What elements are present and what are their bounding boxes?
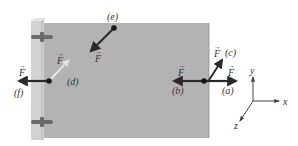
label-f: (f): [14, 88, 23, 98]
vector-arrow-icon: →: [214, 44, 221, 51]
vector-arrow-icon: →: [19, 63, 26, 70]
label-e: (e): [107, 12, 118, 22]
vector-arrow-icon: →: [228, 63, 235, 70]
vector-arrow-icon: →: [178, 63, 185, 70]
application-point-edge: [201, 78, 207, 84]
force-f-symbol: →F: [19, 68, 25, 78]
axis-label-z: z: [234, 121, 238, 131]
vector-arrow-icon: →: [57, 51, 64, 58]
label-a: (a): [222, 86, 234, 96]
force-c-arrow: [209, 60, 222, 80]
force-e-symbol: →F: [95, 54, 101, 64]
application-point-hinge: [46, 78, 52, 84]
axis-label-x: x: [283, 97, 287, 107]
z-axis: [240, 101, 253, 121]
label-d: (d): [67, 77, 79, 87]
application-point-e: [111, 25, 117, 31]
label-b: (b): [172, 86, 184, 96]
label-c: (c): [225, 48, 236, 58]
coordinate-axes: [240, 77, 279, 121]
force-d-symbol: →F: [57, 56, 63, 66]
vector-arrow-icon: →: [95, 49, 102, 56]
force-c-symbol: →F: [214, 49, 220, 59]
force-b-symbol: →F: [178, 68, 184, 78]
axis-label-y: y: [250, 66, 254, 76]
force-a-symbol: →F: [228, 68, 234, 78]
